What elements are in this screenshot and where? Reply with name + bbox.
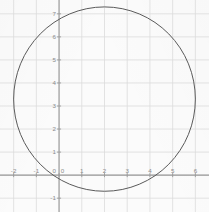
tick-label-x: -1 [34,167,40,174]
tick-label-x: 6 [194,167,198,174]
tick-label-x: 2 [103,167,107,174]
tick-label-y: 7 [52,10,56,17]
tick-label-x: 1 [80,167,84,174]
tick-label-y: 6 [52,33,56,40]
tick-label-y: 1 [52,148,56,155]
circle-graph-figure: -2-10123456 -112345670 [0,0,209,212]
tick-label-y: 3 [52,102,56,109]
coordinate-plane-chart: -2-10123456 -112345670 [0,0,209,212]
tick-label-y: 4 [52,79,56,86]
tick-label-x: 5 [171,167,175,174]
tick-label-y: -1 [50,194,56,201]
tick-label-x: 3 [125,167,129,174]
tick-label-x: -2 [11,167,17,174]
tick-label-origin: 0 [52,167,56,174]
tick-label-y: 2 [52,125,56,132]
tick-label-x: 0 [61,167,65,174]
x-axis-tick-labels: -2-10123456 [11,167,198,174]
tick-label-x: 4 [148,167,152,174]
tick-label-y: 5 [52,56,56,63]
